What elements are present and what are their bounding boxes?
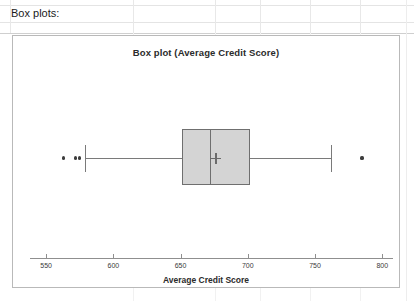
sheet-gridline-horizontal [0, 5, 414, 6]
sheet-gridline-horizontal [0, 22, 414, 23]
worksheet-cell-label: Box plots: [11, 5, 59, 22]
outlier-point [74, 156, 77, 159]
x-axis-title: Average Credit Score [13, 275, 399, 285]
x-axis-tick-label: 600 [98, 262, 128, 269]
x-axis-tick-label: 700 [233, 262, 263, 269]
x-axis-tick-label: 800 [367, 262, 397, 269]
x-axis-tick-label: 550 [31, 262, 61, 269]
sheet-gridline-vertical [406, 0, 407, 301]
outlier-point [62, 156, 65, 159]
x-axis-tick [315, 254, 316, 258]
x-axis-tick [113, 254, 114, 258]
box-plot-chart[interactable]: Box plot (Average Credit Score) 55060065… [12, 35, 400, 288]
whisker-cap-lower [85, 145, 86, 172]
x-axis-tick [46, 254, 47, 258]
outlier-point [78, 156, 81, 159]
x-axis-tick-label: 650 [166, 262, 196, 269]
whisker-cap-upper [331, 145, 332, 172]
sheet-gridline-vertical [215, 0, 216, 33]
sheet-gridline-horizontal [0, 33, 414, 34]
x-axis-tick-label: 750 [300, 262, 330, 269]
x-axis-line [30, 258, 393, 259]
whisker-line-lower [85, 158, 182, 159]
whisker-line-upper [250, 158, 331, 159]
x-axis-tick [382, 254, 383, 258]
x-axis-tick [181, 254, 182, 258]
sheet-gridline-vertical [133, 0, 134, 33]
sheet-gridline-vertical [260, 0, 261, 33]
outlier-point [360, 156, 363, 159]
sheet-gridline-vertical [310, 0, 311, 33]
mean-marker [210, 153, 221, 164]
x-axis-tick [248, 254, 249, 258]
plot-area: 550600650700750800 [13, 36, 401, 289]
sheet-gridline-vertical [360, 0, 361, 33]
